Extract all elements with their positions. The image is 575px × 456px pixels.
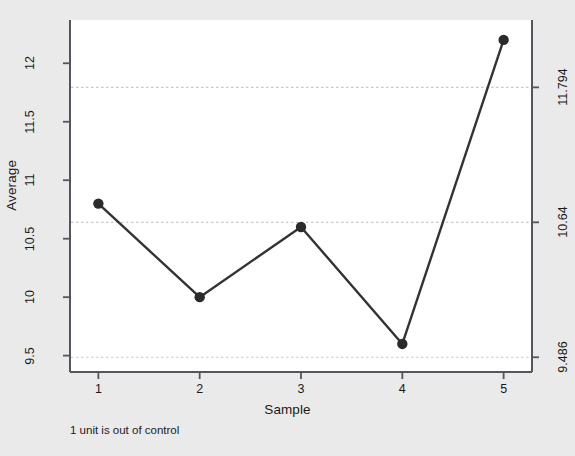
y-tick-right-label: 9.486 <box>556 335 570 379</box>
y-tick-left-label: 11 <box>23 151 37 210</box>
data-point <box>498 35 508 45</box>
y-tick-right-label: 11.794 <box>556 65 570 109</box>
x-tick-label: 4 <box>399 382 406 396</box>
out-of-control-note: 1 unit is out of control <box>70 424 179 436</box>
y-tick-left-label: 9.5 <box>23 326 37 385</box>
y-axis-title: Average <box>4 160 19 211</box>
y-tick-left-label: 10.5 <box>23 209 37 268</box>
x-tick-label: 5 <box>500 382 507 396</box>
y-tick-left-label: 10 <box>23 268 37 327</box>
y-tick-left-label: 12 <box>23 34 37 93</box>
y-tick-right-label: 10.64 <box>556 200 570 244</box>
control-chart: Average Sample 9.51010.51111.512 9.48610… <box>0 0 575 456</box>
x-tick-label: 2 <box>196 382 203 396</box>
data-point <box>397 339 407 349</box>
chart-canvas <box>0 0 575 456</box>
y-tick-left-label: 11.5 <box>23 92 37 151</box>
data-point <box>296 222 306 232</box>
x-axis-title: Sample <box>0 402 575 417</box>
plot-area <box>70 20 532 372</box>
x-tick-label: 1 <box>95 382 102 396</box>
data-point <box>194 292 204 302</box>
data-point <box>93 198 103 208</box>
x-tick-label: 3 <box>298 382 305 396</box>
